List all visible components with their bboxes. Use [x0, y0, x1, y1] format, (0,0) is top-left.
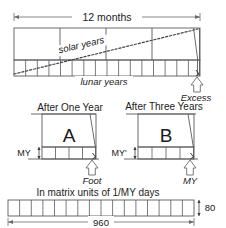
matrix-height-marker: 80 — [197, 200, 215, 216]
panel-after-three-years: After Three Years B MY' MY — [111, 101, 202, 186]
panel-a-my-label: MY — [17, 148, 31, 158]
lunar-years-label: lunar years — [81, 76, 128, 87]
solar-years-label: solar years — [57, 34, 105, 55]
lunar-years-row — [14, 60, 200, 76]
panel-a-arrow-label: Foot — [82, 175, 101, 186]
solar-years-label-group: solar years — [54, 33, 109, 57]
panel-b-my-label: MY' — [111, 148, 127, 158]
matrix-width-marker: 960 — [8, 216, 194, 228]
figure-canvas: 12 months — [0, 0, 226, 228]
panel-a-heading: After One Year — [37, 102, 103, 113]
panel-a-letter: A — [63, 125, 76, 146]
panel-b-heading: After Three Years — [125, 101, 203, 112]
panel-a-height-marker: MY — [17, 147, 40, 159]
twelve-months-label: 12 months — [82, 11, 131, 23]
excess-pointer: Excess — [181, 28, 212, 103]
twelve-months-dimension: 12 months — [14, 11, 200, 23]
matrix-units-section: In matrix units of 1/MY days 80 — [8, 187, 215, 228]
matrix-width-label: 960 — [93, 217, 109, 228]
panel-after-one-year: After One Year A MY — [17, 102, 103, 186]
matrix-height-label: 80 — [205, 202, 216, 213]
panel-b-height-marker: MY' — [111, 147, 136, 159]
matrix-units-heading: In matrix units of 1/MY days — [36, 187, 159, 198]
panel-b-arrow-label: MY — [183, 175, 198, 186]
lunar-years-label-group: lunar years — [75, 76, 133, 87]
calendar-years-diagram: 12 months — [0, 0, 226, 228]
panel-b-letter: B — [160, 125, 173, 146]
